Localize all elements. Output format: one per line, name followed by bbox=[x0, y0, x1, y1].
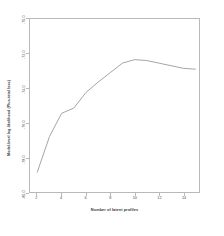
y-axis-tick-label: -72.0 bbox=[23, 50, 27, 59]
x-axis-tick-label: 12 bbox=[157, 197, 161, 201]
line-series-path bbox=[37, 60, 195, 172]
x-axis-tick-label: 6 bbox=[85, 197, 87, 201]
plot-area bbox=[30, 19, 199, 192]
y-axis-tick-label: -76.0 bbox=[23, 120, 27, 129]
x-axis-tick-label: 8 bbox=[109, 197, 111, 201]
x-axis-tick-label: 10 bbox=[133, 197, 137, 201]
plot-frame bbox=[29, 18, 200, 193]
y-axis: -80.0-78.0-76.0-74.0-72.0-70.0 bbox=[0, 0, 29, 236]
x-axis-tick-label: 2 bbox=[35, 197, 37, 201]
x-axis-tick-label: 4 bbox=[60, 197, 62, 201]
y-axis-tick-label: -70.0 bbox=[23, 15, 27, 24]
x-axis-tick-label: 14 bbox=[182, 197, 186, 201]
chart-figure: -80.0-78.0-76.0-74.0-72.0-70.0 Model-lev… bbox=[0, 0, 224, 236]
x-axis-title: Number of latent profiles bbox=[29, 208, 200, 212]
y-axis-title: Model-level log-likelihood (Plus-total l… bbox=[8, 80, 12, 156]
y-axis-tick-label: -80.0 bbox=[23, 190, 27, 199]
y-axis-tick-label: -74.0 bbox=[23, 85, 27, 94]
line-series-svg bbox=[30, 19, 199, 192]
y-axis-tick-label: -78.0 bbox=[23, 155, 27, 164]
